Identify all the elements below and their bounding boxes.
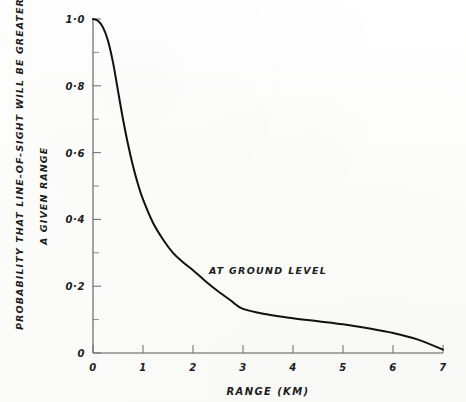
- y-tick-label: 0: [77, 348, 85, 359]
- y-tick-label: 0·2: [65, 281, 85, 292]
- x-tick-label: 7: [439, 362, 447, 373]
- y-tick-label: 1·0: [65, 14, 85, 25]
- y-axis-minor-ticks: [93, 52, 99, 319]
- x-tick-label: 5: [339, 362, 347, 373]
- x-axis-tick-labels: 0 1 2 3 4 5 6 7: [89, 362, 447, 373]
- chart-canvas: 1·0 0·8 0·6 0·4 0·2 0 0 1 2 3 4 5 6 7 RA…: [0, 0, 466, 402]
- y-tick-label: 0·4: [65, 214, 85, 225]
- x-axis-title: RANGE (KM): [226, 386, 309, 397]
- figure-page: 1·0 0·8 0·6 0·4 0·2 0 0 1 2 3 4 5 6 7 RA…: [0, 0, 466, 402]
- y-axis-title-line2: A GIVEN RANGE: [38, 147, 49, 246]
- x-axis-ticks: [93, 345, 443, 353]
- annotation-at-ground-level: AT GROUND LEVEL: [208, 265, 327, 276]
- x-tick-label: 2: [189, 362, 197, 373]
- x-tick-label: 1: [139, 362, 147, 373]
- x-tick-label: 4: [288, 362, 297, 373]
- y-axis-tick-labels: 1·0 0·8 0·6 0·4 0·2 0: [65, 14, 85, 359]
- x-tick-label: 3: [239, 362, 247, 373]
- x-tick-label: 0: [89, 362, 97, 373]
- x-tick-label: 6: [389, 362, 397, 373]
- probability-curve: [93, 19, 443, 350]
- y-tick-label: 0·6: [65, 148, 85, 159]
- y-tick-label: 0·8: [65, 81, 85, 92]
- y-axis-title-line1: PROBABILITY THAT LINE-OF-SIGHT WILL BE G…: [14, 0, 25, 330]
